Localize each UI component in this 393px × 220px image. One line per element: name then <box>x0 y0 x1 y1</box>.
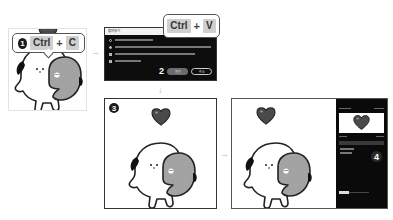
characters-illustration <box>231 129 324 209</box>
characters-illustration <box>115 129 209 209</box>
plus-sign: + <box>194 20 200 32</box>
heart-icon <box>151 108 171 126</box>
layers-panel: 4 <box>336 99 387 208</box>
copy-shortcut-callout: 1 Ctrl + C <box>12 33 85 53</box>
checkbox-icon[interactable] <box>109 60 112 63</box>
ctrl-key: Ctrl <box>30 36 53 50</box>
layers-label <box>339 136 347 137</box>
arrow-right-icon: → <box>91 48 100 57</box>
step2-badge: 2 <box>159 67 164 76</box>
option-text <box>115 46 211 48</box>
panel-title <box>339 108 351 109</box>
radio-icon[interactable] <box>109 39 112 42</box>
heart-icon <box>256 107 276 125</box>
layer-item-selected[interactable] <box>339 141 384 145</box>
plus-sign: + <box>56 37 62 49</box>
cancel-button[interactable]: 취소 <box>191 68 212 75</box>
step1-badge: 1 <box>18 38 27 49</box>
step3-canvas: 3 <box>104 98 217 209</box>
paste-shortcut-callout: Ctrl + V <box>163 14 220 38</box>
layer-preview <box>339 113 384 133</box>
opacity-slider-fill[interactable] <box>339 191 349 194</box>
layer-item[interactable] <box>340 148 354 150</box>
step4-editor: 4 <box>231 98 388 209</box>
panel-controls[interactable] <box>374 108 384 109</box>
ctrl-key: Ctrl <box>167 19 190 33</box>
ok-button[interactable]: 확인 <box>167 68 188 75</box>
layer-item[interactable] <box>340 152 352 154</box>
option-text <box>115 60 141 62</box>
option-text <box>115 53 195 55</box>
step4-badge: 4 <box>371 151 382 162</box>
layers-controls[interactable] <box>376 136 384 137</box>
heart-icon <box>353 114 370 131</box>
paste-option-2[interactable] <box>109 45 216 49</box>
paste-option-4[interactable] <box>109 59 216 63</box>
arrow-down-icon: ↓ <box>158 86 163 95</box>
c-key: C <box>66 36 79 50</box>
arrow-right-icon: → <box>220 150 229 159</box>
paste-option-1[interactable] <box>109 38 216 42</box>
checkbox-icon[interactable] <box>109 53 112 56</box>
option-text <box>115 39 153 41</box>
radio-selected-icon[interactable] <box>109 46 112 49</box>
paste-option-3[interactable] <box>109 52 216 56</box>
step3-badge: 3 <box>109 103 119 113</box>
v-key: V <box>203 19 216 33</box>
